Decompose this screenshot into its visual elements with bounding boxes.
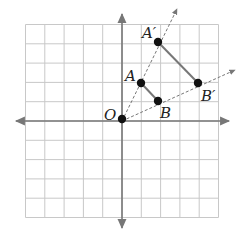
label-a: A <box>123 67 136 85</box>
label-b: B <box>159 104 171 122</box>
label-a-prime: A′ <box>140 24 157 42</box>
segment-a-prime-b-prime <box>158 42 198 83</box>
label-o: O <box>104 106 116 124</box>
label-b-prime: B′ <box>200 87 216 105</box>
point-o <box>118 115 126 123</box>
point-a <box>137 79 145 87</box>
point-b-prime <box>194 79 202 87</box>
coordinate-plane: O A B A′ B′ <box>0 0 247 238</box>
